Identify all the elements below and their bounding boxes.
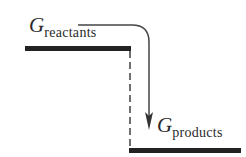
reactants-level-bar — [25, 46, 131, 51]
products-label: Gproducts — [157, 115, 223, 136]
products-level-bar — [129, 148, 241, 153]
products-symbol: G — [157, 113, 172, 137]
reactants-label: Greactants — [29, 15, 97, 36]
reactants-subscript: reactants — [44, 25, 96, 40]
products-subscript: products — [172, 125, 223, 140]
reactants-symbol: G — [29, 13, 44, 37]
free-energy-diagram: Greactants Gproducts — [0, 0, 246, 157]
